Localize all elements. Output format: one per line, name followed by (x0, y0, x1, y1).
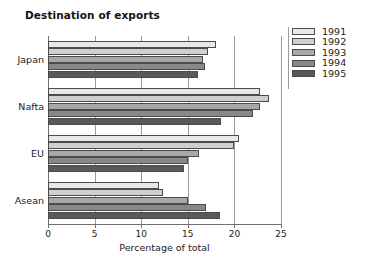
x-axis-title: Percentage of total (48, 242, 281, 253)
bar-eu-1994 (48, 157, 188, 164)
legend-item-1995[interactable]: 1995 (292, 68, 366, 79)
bar-japan-1995 (48, 71, 198, 78)
x-tick-mark-15 (188, 224, 189, 228)
x-tick-mark-25 (281, 224, 282, 228)
x-tick-label-15: 15 (182, 229, 193, 239)
x-axis-line (48, 224, 282, 225)
legend-item-1994[interactable]: 1994 (292, 58, 366, 69)
bar-eu-1993 (48, 150, 199, 157)
bar-eu-1995 (48, 165, 184, 172)
category-label-japan: Japan (18, 54, 45, 65)
category-label-asean: Asean (15, 195, 44, 206)
bar-asean-1995 (48, 212, 220, 219)
category-label-nafta: Nafta (18, 101, 44, 112)
bar-group (48, 83, 281, 130)
x-tick-label-25: 25 (275, 229, 286, 239)
plot-area (48, 36, 281, 224)
chart-container: Destination of exports JapanNaftaEUAsean… (0, 0, 371, 259)
chart-title: Destination of exports (25, 9, 160, 21)
bar-nafta-1992 (48, 95, 269, 102)
legend-item-1991[interactable]: 1991 (292, 26, 366, 37)
legend-label-1992: 1992 (322, 37, 346, 47)
bar-japan-1993 (48, 56, 203, 63)
bar-nafta-1994 (48, 110, 253, 117)
bar-nafta-1995 (48, 118, 221, 125)
legend-item-1993[interactable]: 1993 (292, 47, 366, 58)
bar-eu-1991 (48, 135, 239, 142)
bar-japan-1991 (48, 41, 216, 48)
bar-group (48, 130, 281, 177)
bar-japan-1992 (48, 48, 208, 55)
category-label-eu: EU (31, 148, 44, 159)
bar-asean-1994 (48, 204, 206, 211)
bar-asean-1991 (48, 182, 159, 189)
bar-group (48, 177, 281, 224)
x-tick-label-0: 0 (45, 229, 51, 239)
x-tick-mark-20 (234, 224, 235, 228)
bar-eu-1992 (48, 142, 234, 149)
x-tick-mark-5 (95, 224, 96, 228)
gridline-25 (281, 36, 282, 224)
legend-label-1994: 1994 (322, 58, 346, 68)
legend-swatch-1993 (292, 49, 315, 56)
legend-swatch-1994 (292, 60, 315, 67)
legend-label-1995: 1995 (322, 69, 346, 79)
legend-swatch-1995 (292, 70, 315, 77)
chart-legend: 19911992199319941995 (292, 26, 366, 79)
bar-asean-1993 (48, 197, 188, 204)
legend-label-1991: 1991 (322, 27, 346, 37)
legend-swatch-1992 (292, 38, 315, 45)
bar-asean-1992 (48, 189, 163, 196)
category-axis-labels: JapanNaftaEUAsean (0, 0, 44, 259)
x-tick-mark-10 (141, 224, 142, 228)
legend-item-1992[interactable]: 1992 (292, 37, 366, 48)
legend-swatch-1991 (292, 28, 315, 35)
bar-japan-1994 (48, 63, 205, 70)
x-tick-mark-0 (48, 224, 49, 228)
bar-group (48, 36, 281, 83)
x-tick-label-20: 20 (229, 229, 240, 239)
bar-nafta-1991 (48, 88, 260, 95)
legend-divider (288, 27, 289, 89)
x-tick-label-10: 10 (135, 229, 146, 239)
legend-label-1993: 1993 (322, 48, 346, 58)
x-tick-label-5: 5 (92, 229, 98, 239)
bar-nafta-1993 (48, 103, 260, 110)
